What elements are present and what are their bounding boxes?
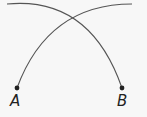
point-a-dot <box>15 86 20 91</box>
diagram-canvas: A B <box>0 0 147 117</box>
point-b-dot <box>120 86 125 91</box>
arc-to-b <box>7 3 122 88</box>
point-b-label: B <box>117 94 127 109</box>
arc-from-a <box>17 4 132 88</box>
point-a-label: A <box>10 94 20 109</box>
